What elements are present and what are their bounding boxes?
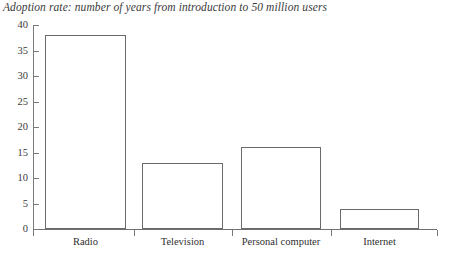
y-axis-tick-label: 35 — [0, 43, 28, 59]
x-axis-tick-mark — [331, 230, 332, 236]
y-axis-tick-mark — [33, 153, 39, 154]
y-axis-tick: 15 — [0, 153, 42, 154]
y-axis-tick: 0 — [0, 229, 42, 230]
y-axis-tick: 40 — [0, 25, 42, 26]
y-axis-tick-label: 15 — [0, 145, 28, 161]
bar-television — [142, 163, 223, 229]
y-axis-tick: 35 — [0, 51, 42, 52]
y-axis-tick: 10 — [0, 178, 42, 179]
x-axis-category-label: Personal computer — [242, 236, 320, 247]
y-axis-tick-mark — [33, 102, 39, 103]
y-axis-tick-mark — [33, 204, 39, 205]
y-axis-tick-label: 30 — [0, 68, 28, 84]
y-axis-tick: 30 — [0, 76, 42, 77]
x-axis-tick-mark — [232, 230, 233, 236]
y-axis-tick-mark — [33, 127, 39, 128]
y-axis-tick-mark — [33, 25, 39, 26]
y-axis-tick-label: 40 — [0, 17, 28, 33]
bar-personal-computer — [241, 147, 321, 229]
chart-title: Adoption rate: number of years from intr… — [3, 1, 327, 13]
y-axis-tick-label: 20 — [0, 119, 28, 135]
x-axis-category-label: Television — [161, 236, 205, 247]
x-axis-tick-mark — [134, 230, 135, 236]
y-axis-tick: 25 — [0, 102, 42, 103]
bar-radio — [45, 35, 126, 229]
x-axis-line — [33, 229, 437, 230]
y-axis-tick: 5 — [0, 204, 42, 205]
x-axis-tick-mark — [437, 230, 438, 236]
y-axis-tick-label: 10 — [0, 170, 28, 186]
y-axis-tick-label: 0 — [0, 221, 28, 237]
y-axis-tick-mark — [33, 51, 39, 52]
x-axis-category-label: Internet — [363, 236, 396, 247]
x-axis-tick-mark — [33, 230, 34, 236]
bar-chart-figure: Adoption rate: number of years from intr… — [0, 0, 450, 265]
y-axis-tick: 20 — [0, 127, 42, 128]
y-axis-tick-label: 5 — [0, 196, 28, 212]
y-axis-tick-mark — [33, 76, 39, 77]
y-axis-tick-mark — [33, 178, 39, 179]
y-axis-tick-label: 25 — [0, 94, 28, 110]
bar-internet — [340, 209, 419, 229]
x-axis-category-label: Radio — [73, 236, 98, 247]
